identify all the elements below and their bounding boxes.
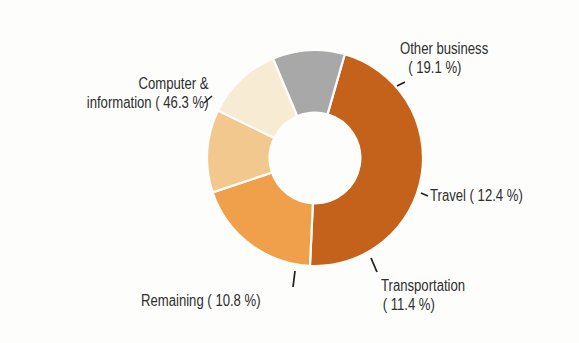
label-other-business-line2: ( 19.1 %) (400, 58, 488, 77)
leader-line-transportation (371, 258, 377, 272)
leader-line-travel (421, 193, 428, 196)
label-computer-line2: information ( 46.3 %) (87, 93, 209, 112)
label-travel-line1: Travel ( 12.4 %) (430, 186, 523, 205)
leader-line-remaining (293, 271, 295, 287)
label-transportation-line1: Transportation (381, 276, 465, 295)
label-remaining-line1: Remaining ( 10.8 %) (141, 291, 261, 310)
leader-line-other-business (397, 82, 405, 86)
donut-slices (207, 50, 423, 266)
label-transportation: Transportation ( 11.4 %) (381, 276, 465, 314)
label-other-business: Other business ( 19.1 %) (400, 39, 488, 77)
donut-chart: Computer & information ( 46.3 %) Other b… (0, 0, 579, 343)
label-travel: Travel ( 12.4 %) (430, 186, 523, 205)
label-computer-information: Computer & information ( 46.3 %) (87, 74, 209, 112)
label-transportation-line2: ( 11.4 %) (381, 295, 465, 314)
label-other-business-line1: Other business (400, 39, 488, 58)
label-remaining: Remaining ( 10.8 %) (141, 291, 261, 310)
label-computer-line1: Computer & (87, 74, 209, 93)
donut-chart-svg (0, 0, 579, 343)
